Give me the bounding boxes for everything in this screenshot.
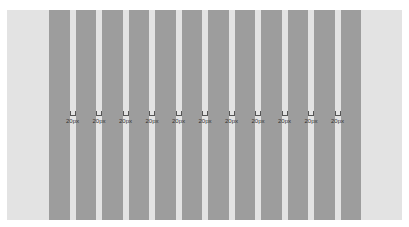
gutter-marker: 20px xyxy=(113,111,139,125)
gutter-label: 20px xyxy=(145,117,158,125)
gutter-marker: 20px xyxy=(298,111,324,125)
gutter-marker: 20px xyxy=(60,111,86,125)
gutter-marker: 20px xyxy=(86,111,112,125)
gutter-label: 20px xyxy=(119,117,132,125)
bracket-icon xyxy=(149,111,155,116)
bracket-icon xyxy=(308,111,314,116)
gutter-marker: 20px xyxy=(325,111,351,125)
gutter-marker: 20px xyxy=(245,111,271,125)
gutter-label: 20px xyxy=(251,117,264,125)
gutter-marker: 20px xyxy=(139,111,165,125)
gutter-label: 20px xyxy=(225,117,238,125)
gutter-marker: 20px xyxy=(192,111,218,125)
gutter-marker: 20px xyxy=(272,111,298,125)
bracket-icon xyxy=(123,111,129,116)
gutter-label: 20px xyxy=(304,117,317,125)
bracket-icon xyxy=(96,111,102,116)
gutter-label: 20px xyxy=(92,117,105,125)
gutter-marker: 20px xyxy=(219,111,245,125)
bracket-icon xyxy=(229,111,235,116)
gutter-label: 20px xyxy=(172,117,185,125)
grid-container: 20px 20px 20px 20px 20px 20px 20px 20px xyxy=(7,10,402,220)
bracket-icon xyxy=(255,111,261,116)
gutter-label: 20px xyxy=(198,117,211,125)
gutter-markers: 20px 20px 20px 20px 20px 20px 20px 20px xyxy=(49,111,361,131)
gutter-marker: 20px xyxy=(166,111,192,125)
bracket-icon xyxy=(202,111,208,116)
gutter-label: 20px xyxy=(66,117,79,125)
gutter-label: 20px xyxy=(331,117,344,125)
gutter-label: 20px xyxy=(278,117,291,125)
bracket-icon xyxy=(335,111,341,116)
bracket-icon xyxy=(176,111,182,116)
bracket-icon xyxy=(70,111,76,116)
bracket-icon xyxy=(282,111,288,116)
